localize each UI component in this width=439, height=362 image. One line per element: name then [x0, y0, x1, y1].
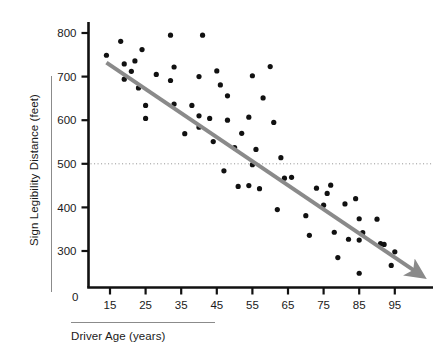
x-tick-label: 25 — [139, 299, 152, 311]
data-point — [278, 155, 283, 160]
data-point — [143, 116, 148, 121]
data-point — [357, 216, 362, 221]
data-point — [218, 82, 223, 87]
y-tick-label: 500 — [57, 158, 76, 170]
data-point — [196, 74, 201, 79]
y-tick-label: 600 — [57, 114, 76, 126]
data-point — [182, 131, 187, 136]
data-point — [325, 191, 330, 196]
data-point — [250, 73, 255, 78]
data-point — [129, 69, 134, 74]
data-point — [253, 147, 258, 152]
data-point — [303, 213, 308, 218]
data-point — [289, 175, 294, 180]
x-tick-label: 65 — [282, 299, 295, 311]
data-point — [335, 255, 340, 260]
data-point — [268, 64, 273, 69]
y-tick-label: 700 — [57, 71, 76, 83]
data-point — [374, 217, 379, 222]
data-point — [225, 93, 230, 98]
data-point — [104, 53, 109, 58]
x-axis-label-rule — [71, 322, 215, 323]
data-point — [392, 249, 397, 254]
data-point — [357, 271, 362, 276]
data-point — [196, 113, 201, 118]
data-point — [139, 47, 144, 52]
y-tick-label: 300 — [57, 245, 76, 257]
data-point — [221, 168, 226, 173]
data-point — [275, 207, 280, 212]
y-axis-ticks: 300400500600700800 — [57, 27, 88, 257]
data-point — [314, 186, 319, 191]
data-points-group — [104, 33, 398, 276]
data-point — [357, 238, 362, 243]
data-point — [236, 184, 241, 189]
data-point — [118, 39, 123, 44]
x-axis-title: Driver Age (years) — [71, 330, 271, 342]
data-point — [353, 196, 358, 201]
data-point — [154, 72, 159, 77]
plot-canvas: 300400500600700800 152535455565758595 — [0, 0, 439, 362]
data-point — [389, 263, 394, 268]
data-point — [346, 237, 351, 242]
x-tick-label: 15 — [104, 299, 117, 311]
x-tick-label: 95 — [388, 299, 401, 311]
data-point — [382, 242, 387, 247]
x-axis-label-group: Driver Age (years) — [71, 322, 271, 342]
trend-line — [106, 63, 416, 272]
data-point — [239, 131, 244, 136]
data-point — [246, 183, 251, 188]
data-point — [271, 120, 276, 125]
data-point — [143, 103, 148, 108]
y-tick-label: 400 — [57, 202, 76, 214]
x-axis-ticks: 152535455565758595 — [104, 288, 402, 311]
data-point — [225, 118, 230, 123]
data-point — [257, 186, 262, 191]
data-point — [246, 115, 251, 120]
data-point — [132, 58, 137, 63]
scatter-plot-figure: Sign Legibility Distance (feet) 30040050… — [0, 0, 439, 362]
x-tick-label: 55 — [246, 299, 259, 311]
data-point — [211, 139, 216, 144]
data-point — [214, 68, 219, 73]
y-tick-label: 800 — [57, 27, 76, 39]
origin-zero-label: 0 — [72, 291, 78, 303]
data-point — [342, 201, 347, 206]
x-tick-label: 35 — [175, 299, 188, 311]
data-point — [189, 103, 194, 108]
data-point — [307, 233, 312, 238]
data-point — [168, 33, 173, 38]
data-point — [260, 95, 265, 100]
x-tick-label: 45 — [210, 299, 223, 311]
data-point — [328, 183, 333, 188]
data-point — [207, 116, 212, 121]
data-point — [168, 78, 173, 83]
data-point — [171, 64, 176, 69]
data-point — [122, 61, 127, 66]
data-point — [332, 230, 337, 235]
x-tick-label: 75 — [317, 299, 330, 311]
data-point — [200, 33, 205, 38]
x-tick-label: 85 — [353, 299, 366, 311]
